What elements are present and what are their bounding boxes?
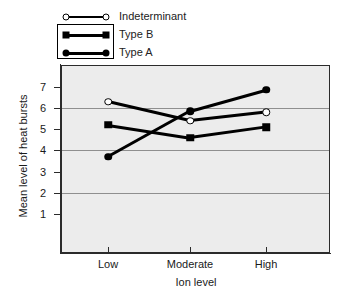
x-axis-title: Ion level [176, 276, 217, 288]
gridline [62, 150, 329, 151]
chart-figure: Indeterminant Type B Type A 1234567 LowM… [0, 0, 341, 301]
y-tick [54, 214, 60, 215]
x-axis-line [60, 253, 331, 254]
plot-area [61, 65, 330, 253]
circle-open-icon [103, 13, 110, 20]
legend-label-type-b: Type B [119, 29, 153, 40]
x-tick-label: Moderate [167, 258, 213, 270]
y-tick [54, 129, 60, 130]
y-tick-label: 6 [32, 103, 46, 114]
y-tick-label: 1 [32, 209, 46, 220]
y-tick-label: 3 [32, 166, 46, 177]
chart-legend: Indeterminant Type B Type A [60, 8, 186, 61]
legend-label-type-a: Type A [119, 47, 153, 58]
gridline [62, 193, 329, 194]
y-axis-title: Mean level of heat bursts [17, 71, 29, 241]
gridline [62, 108, 329, 109]
y-tick [54, 172, 60, 173]
y-tick-label: 2 [32, 187, 46, 198]
y-tick-label: 7 [32, 81, 46, 92]
y-tick [54, 193, 60, 194]
x-tick [190, 247, 191, 254]
x-tick [266, 247, 267, 254]
y-axis-line [60, 64, 61, 254]
y-tick-label: 5 [32, 124, 46, 135]
legend-item-indeterminant: Indeterminant [60, 8, 186, 25]
y-tick [54, 150, 60, 151]
y-tick [54, 108, 60, 109]
x-tick [108, 247, 109, 254]
x-tick-label: Low [98, 258, 118, 270]
y-tick [54, 87, 60, 88]
legend-label-indeterminant: Indeterminant [119, 11, 186, 22]
y-tick-label: 4 [32, 145, 46, 156]
legend-border [57, 24, 114, 59]
legend-swatch-indeterminant [60, 8, 112, 25]
circle-open-icon [63, 13, 70, 20]
x-tick-label: High [255, 258, 278, 270]
